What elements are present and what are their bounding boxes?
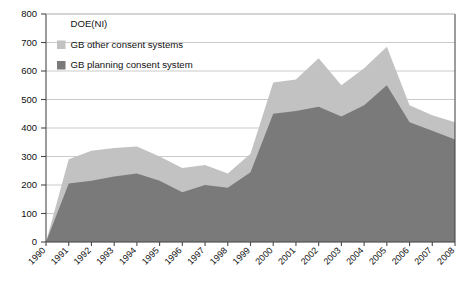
legend-label-gb-planning-consent-system: GB planning consent system xyxy=(71,59,193,70)
legend-swatch-gb-other-consent-systems xyxy=(57,41,66,50)
y-tick-label: 700 xyxy=(21,37,37,48)
chart-canvas: 0100200300400500600700800 19901991199219… xyxy=(0,0,462,281)
y-tick-label: 500 xyxy=(21,94,37,105)
y-tick-label: 0 xyxy=(32,236,37,247)
y-tick-label: 400 xyxy=(21,122,37,133)
y-tick-label: 800 xyxy=(21,8,37,19)
y-tick-label: 600 xyxy=(21,65,37,76)
legend-swatch-gb-planning-consent-system xyxy=(57,61,66,70)
area-chart: 0100200300400500600700800 19901991199219… xyxy=(0,0,462,281)
legend-label-doe-ni: DOE(NI) xyxy=(71,18,108,29)
legend-label-gb-other-consent-systems: GB other consent systems xyxy=(71,39,184,50)
y-tick-label: 100 xyxy=(21,208,37,219)
y-tick-label: 200 xyxy=(21,179,37,190)
y-tick-label: 300 xyxy=(21,151,37,162)
